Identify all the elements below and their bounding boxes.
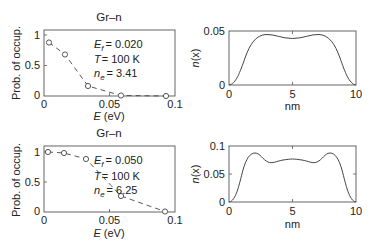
x-tick-5: 5 [289,88,295,100]
x-tick-0.1: 0.1 [167,214,182,226]
y-tick-0.5: 0.5 [25,176,40,188]
y-tick-0: 0 [219,79,225,91]
density-curve [229,34,356,85]
svg-text:Ef= 0.020: Ef= 0.020 [94,38,143,53]
svg-text:ne= 6.25: ne= 6.25 [94,184,137,199]
x-tick-0: 0 [41,98,47,110]
y-tick-0.1: 0.1 [210,140,225,152]
svg-text:ne= 3.41: ne= 3.41 [94,67,137,82]
x-axis-label: E (eV) [93,227,124,239]
y-tick-0.5: 0.5 [25,59,40,71]
y-axis-label: n(x) [189,49,201,68]
y-tick-0: 0 [219,196,225,208]
plot-title: Gr–n [96,11,122,23]
x-tick-5: 5 [289,205,295,217]
plot-bottom-right: 0.1 0.05 0 0 5 10 nm n(x) [189,140,362,230]
y-tick-0.05: 0.05 [204,25,225,37]
y-tick-0.05: 0.05 [204,168,225,180]
annotation-block: Ef= 0.020 T= 100 K ne= 3.41 [94,38,143,82]
plot-top-right: 0.05 0 0 5 10 nm n(x) [189,25,362,112]
x-tick-10: 10 [350,205,362,217]
axes-box [229,146,356,202]
svg-text:T= 100 K: T= 100 K [94,170,141,182]
x-tick-0: 0 [226,205,232,217]
x-tick-0: 0 [41,214,47,226]
plot-bottom-left: Gr–n 1 0.5 0 0 0.05 0.1 E (eV) Prob. of … [10,127,183,239]
y-tick-1: 1 [34,146,40,158]
y-axis-label: Prob. of occup. [10,26,22,100]
x-axis-label: nm [285,100,300,112]
x-tick-0: 0 [226,88,232,100]
y-tick-1: 1 [34,29,40,41]
plot-top-left: Gr–n 1 0.5 0 0 0.05 0.1 E (eV) Prob. of … [10,11,183,122]
x-tick-0.1: 0.1 [167,98,182,110]
y-axis-label: n(x) [189,165,201,184]
y-tick-0: 0 [34,89,40,101]
y-tick-0: 0 [34,205,40,217]
x-axis-label: E (eV) [93,110,124,122]
x-tick-0.05: 0.05 [99,98,120,110]
plot-title: Gr–n [96,127,122,139]
svg-text:T= 100 K: T= 100 K [94,53,141,65]
x-axis-label: nm [285,218,300,230]
annotation-block: Ef= 0.050 T= 100 K ne= 6.25 [94,154,143,199]
density-curve [229,153,356,202]
figure: Gr–n 1 0.5 0 0 0.05 0.1 E (eV) Prob. of … [0,0,372,247]
y-axis-label: Prob. of occup. [10,143,22,217]
x-tick-0.05: 0.05 [99,214,120,226]
axes-box [229,31,356,85]
x-tick-10: 10 [350,88,362,100]
svg-text:Ef= 0.050: Ef= 0.050 [94,154,143,169]
